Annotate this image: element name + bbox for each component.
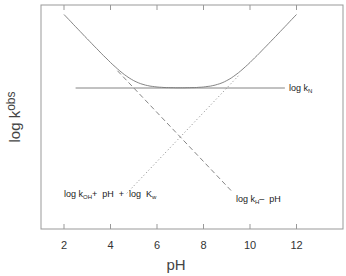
- series-line: [64, 15, 297, 88]
- series-line: [118, 71, 232, 191]
- y-axis-label-sub: obs: [4, 91, 18, 110]
- rate-ph-profile-chart: 24681012 pH log kobs log kN log kOH+ pH …: [0, 0, 346, 276]
- annotation-log-kn: log kN: [289, 83, 312, 94]
- annotation-log-koh: log kOH+ pH + log Kw: [64, 189, 157, 200]
- svg-text:log kobs: log kobs: [4, 91, 23, 142]
- x-tick-labels: 24681012: [61, 239, 303, 251]
- x-tick-label: 4: [107, 239, 113, 251]
- y-axis-label: log kobs: [4, 91, 23, 142]
- x-tick-label: 12: [290, 239, 302, 251]
- x-tick-label: 10: [244, 239, 256, 251]
- y-axis-label-main: log k: [6, 110, 23, 142]
- x-tick-label: 8: [200, 239, 206, 251]
- series-group: [64, 15, 297, 194]
- x-tick-label: 6: [154, 239, 160, 251]
- series-line: [127, 76, 239, 194]
- x-axis-label: pH: [166, 256, 185, 273]
- annotation-log-kh: log kH– pH: [236, 194, 281, 205]
- x-tick-label: 2: [61, 239, 67, 251]
